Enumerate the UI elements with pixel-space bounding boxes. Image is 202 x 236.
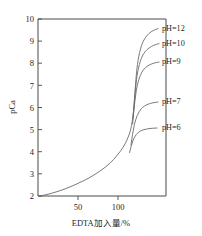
x-label-100: 100 — [112, 202, 125, 212]
curve-ph7 — [131, 102, 158, 145]
series-label-ph6: pH=6 — [162, 123, 181, 132]
series-label-ph12: pH=12 — [162, 24, 185, 33]
curve-group — [40, 29, 159, 196]
y-label-3: 3 — [30, 169, 34, 179]
series-labels: pH=12 pH=10 pH=9 pH=7 pH=6 — [162, 24, 185, 132]
x-axis-title: EDTA加入量/% — [72, 218, 130, 228]
series-label-ph9: pH=9 — [162, 57, 181, 66]
y-label-6: 6 — [30, 103, 34, 113]
x-tick-marks — [78, 196, 118, 200]
y-tick-marks — [38, 19, 42, 196]
y-tick-labels: 10 9 8 7 6 5 4 3 2 — [26, 14, 35, 201]
y-label-10: 10 — [26, 14, 35, 24]
y-label-7: 7 — [30, 81, 34, 91]
y-label-5: 5 — [30, 125, 34, 135]
titration-curve-figure: 10 9 8 7 6 5 4 3 2 50 100 EDTA加入量/% pCa — [0, 0, 202, 236]
y-axis-title: pCa — [7, 100, 17, 114]
curve-ph10 — [133, 44, 159, 118]
curve-ph12 — [40, 29, 158, 196]
series-label-ph7: pH=7 — [162, 97, 181, 106]
y-label-4: 4 — [30, 147, 35, 157]
y-label-2: 2 — [30, 191, 34, 201]
series-label-ph10: pH=10 — [162, 39, 185, 48]
x-label-50: 50 — [74, 202, 83, 212]
y-label-8: 8 — [30, 58, 34, 68]
curve-ph6 — [130, 128, 157, 153]
chart-canvas: 10 9 8 7 6 5 4 3 2 50 100 EDTA加入量/% pCa — [0, 0, 202, 236]
y-label-9: 9 — [30, 36, 34, 46]
x-tick-labels: 50 100 — [74, 202, 125, 212]
